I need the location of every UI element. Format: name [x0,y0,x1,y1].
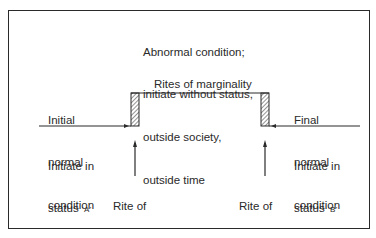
arrow-left-icon [271,124,276,128]
rite-of-separation-label: Rite of separation [113,170,167,238]
separation-bar [131,93,139,126]
status-prefix: status [48,202,82,214]
final-line: Final [294,113,340,127]
status-code-a: 'A' [82,205,92,214]
rite-of-line: Rite of [239,199,300,213]
note-line: Abnormal condition; [143,45,253,59]
rite-of-aggregation-label: Rite of aggregation [239,170,300,238]
arrow-right-icon [124,124,129,128]
arrow-up-icon [263,140,267,147]
initiate-status-b-label: Initiate in status 'B' [294,130,340,232]
status-line: status 'B' [294,201,340,217]
initial-line: Initial [48,113,94,127]
status-code-b: 'B' [328,205,338,214]
arrow-up-icon [133,140,137,147]
marginality-label: Rites of marginality [154,77,252,91]
status-line: status 'A' [48,201,94,217]
initiate-line: Initiate in [48,159,94,173]
initiate-status-a-label: Initiate in status 'A' [48,130,94,232]
note-line: outside society, [143,130,253,144]
rite-of-line: Rite of [113,199,167,213]
aggregation-bar [261,93,269,126]
initiate-line: Initiate in [294,159,340,173]
